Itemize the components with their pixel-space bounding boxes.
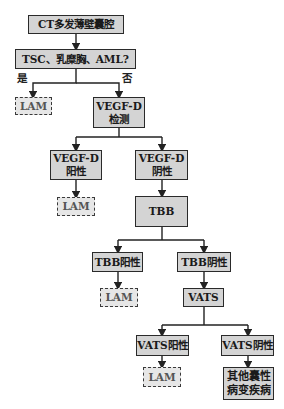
node-lam-2-label: LAM xyxy=(62,200,89,213)
node-vegf-test: VEGF-D 检测 xyxy=(93,97,145,128)
node-vegf-positive-line1: VEGF-D xyxy=(53,152,99,165)
node-lam-2: LAM xyxy=(57,197,95,216)
node-lam-3: LAM xyxy=(100,288,138,307)
node-other-line2: 病变疾病 xyxy=(227,384,271,398)
node-tbb-positive-label: TBB阳性 xyxy=(95,256,141,269)
node-vats-negative: VATS阴性 xyxy=(221,335,274,356)
node-vats-positive: VATS阳性 xyxy=(136,335,189,356)
node-vats-label: VATS xyxy=(188,291,218,304)
node-lam-4: LAM xyxy=(143,367,181,387)
node-vegf-negative: VEGF-D 阴性 xyxy=(135,150,188,180)
node-tbb-positive: TBB阳性 xyxy=(92,252,143,272)
node-tbb-negative: TBB阴性 xyxy=(177,252,231,272)
node-vats-negative-label: VATS阴性 xyxy=(222,339,272,352)
node-other-line1: 其他囊性 xyxy=(227,370,271,384)
node-vegf-negative-line1: VEGF-D xyxy=(139,152,185,165)
node-lam-4-label: LAM xyxy=(148,371,175,384)
node-tsc-question: TSC、乳糜胸、AML? xyxy=(15,49,136,69)
node-vats-positive-label: VATS阳性 xyxy=(137,339,187,352)
node-ct-thin-wall-cysts: CT多发薄壁囊腔 xyxy=(28,15,124,34)
node-vegf-test-line2: 检测 xyxy=(109,113,129,126)
edge-label-no: 否 xyxy=(122,70,132,85)
node-vegf-test-line1: VEGF-D xyxy=(96,100,142,113)
node-tsc-label: TSC、乳糜胸、AML? xyxy=(22,53,129,66)
node-other-cystic-disease: 其他囊性 病变疾病 xyxy=(223,367,274,400)
node-tbb-negative-label: TBB阴性 xyxy=(181,256,227,269)
node-vats: VATS xyxy=(183,288,224,307)
node-vegf-positive: VEGF-D 阳性 xyxy=(50,150,102,180)
node-tbb: TBB xyxy=(135,196,188,227)
node-lam-1: LAM xyxy=(15,97,52,115)
node-ct-label: CT多发薄壁囊腔 xyxy=(38,18,114,31)
node-vegf-positive-line2: 阳性 xyxy=(66,165,86,178)
node-lam-3-label: LAM xyxy=(105,291,132,304)
node-vegf-negative-line2: 阴性 xyxy=(152,165,172,178)
node-lam-1-label: LAM xyxy=(20,100,47,113)
node-tbb-label: TBB xyxy=(149,205,175,218)
edge-label-yes: 是 xyxy=(17,70,27,85)
